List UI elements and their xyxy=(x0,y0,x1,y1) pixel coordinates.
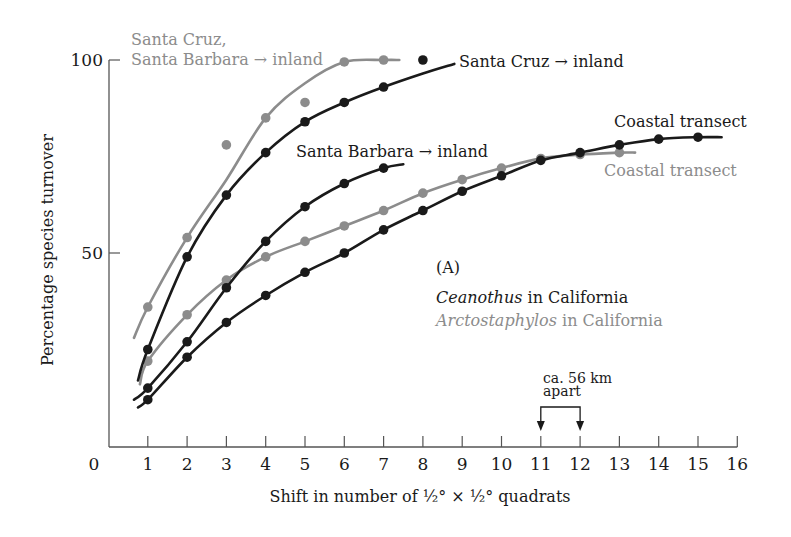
data-point xyxy=(143,302,153,312)
data-point xyxy=(300,98,310,108)
data-point xyxy=(222,318,232,328)
data-point xyxy=(261,148,271,158)
data-point xyxy=(222,283,232,293)
series-line xyxy=(138,64,454,381)
data-point xyxy=(654,134,664,144)
data-point xyxy=(182,352,192,362)
x-tick-label: 10 xyxy=(491,454,513,474)
legend-arctostaphylos: Arctostaphylos in California xyxy=(434,311,663,330)
data-point xyxy=(222,140,232,150)
data-point xyxy=(379,225,389,235)
series-label: Coastal transect xyxy=(614,112,747,131)
x-tick-label: 3 xyxy=(221,454,232,474)
x-tick-label: 9 xyxy=(457,454,468,474)
data-point xyxy=(261,291,271,301)
data-point xyxy=(222,190,232,200)
x-tick-label: 7 xyxy=(378,454,389,474)
x-tick-label: 5 xyxy=(300,454,311,474)
x-tick-label: 2 xyxy=(182,454,193,474)
x-tick-label: 12 xyxy=(569,454,591,474)
data-point xyxy=(379,206,389,216)
x-axis-label: Shift in number of ½° × ½° quadrats xyxy=(269,487,570,506)
data-point xyxy=(182,337,192,347)
data-point xyxy=(143,395,153,405)
data-point xyxy=(693,132,703,142)
species-turnover-chart: 01234567891011121314151650100 Santa Cruz… xyxy=(0,0,791,537)
y-tick-label: 100 xyxy=(71,50,103,70)
series-line xyxy=(140,152,635,384)
data-point xyxy=(182,310,192,320)
data-point xyxy=(261,113,271,123)
legend: Ceanothus in California Arctostaphylos i… xyxy=(434,288,663,330)
data-point xyxy=(340,57,350,67)
series-label: Santa Cruz, xyxy=(131,30,227,49)
x-tick-label: 14 xyxy=(648,454,670,474)
data-point xyxy=(340,98,350,108)
annotation-line-2: apart xyxy=(543,383,581,399)
x-tick-label: 6 xyxy=(339,454,350,474)
series-label: Santa Cruz → inland xyxy=(459,52,624,71)
series-3 xyxy=(140,148,635,384)
data-point xyxy=(261,252,271,262)
data-point xyxy=(143,383,153,393)
y-axis-label: Percentage species turnover xyxy=(38,134,57,366)
y-tick-label: 50 xyxy=(81,243,103,263)
data-point xyxy=(575,148,585,158)
x-tick-label: 4 xyxy=(260,454,271,474)
data-point xyxy=(615,140,625,150)
x-tick-label: 13 xyxy=(609,454,631,474)
data-point xyxy=(497,171,507,181)
x-tick-label: 16 xyxy=(726,454,748,474)
panel-label: (A) xyxy=(436,258,460,277)
data-point xyxy=(340,179,350,189)
data-point xyxy=(418,55,428,65)
data-point xyxy=(418,206,428,216)
data-point xyxy=(418,188,428,198)
series-label: Santa Barbara → inland xyxy=(131,50,323,69)
bracket-arrow-icon xyxy=(537,407,584,431)
distance-annotation: ca. 56 km apart xyxy=(537,370,612,431)
data-point xyxy=(340,248,350,258)
series-label: Coastal transect xyxy=(604,161,737,180)
x-tick-label: 11 xyxy=(530,454,552,474)
x-tick-label: 0 xyxy=(89,454,100,474)
data-point xyxy=(300,268,310,278)
x-tick-label: 8 xyxy=(417,454,428,474)
data-point xyxy=(379,82,389,92)
data-point xyxy=(182,233,192,243)
data-point xyxy=(379,163,389,173)
data-point xyxy=(457,175,467,185)
data-point xyxy=(182,252,192,262)
series-group xyxy=(134,55,722,407)
data-point xyxy=(300,117,310,127)
data-point xyxy=(300,202,310,212)
series-label: Santa Barbara → inland xyxy=(296,142,488,161)
data-point xyxy=(457,186,467,196)
x-tick-label: 15 xyxy=(687,454,709,474)
data-point xyxy=(300,237,310,247)
data-point xyxy=(143,345,153,355)
legend-ceanothus: Ceanothus in California xyxy=(436,288,629,307)
x-tick-label: 1 xyxy=(142,454,153,474)
data-point xyxy=(261,237,271,247)
data-point xyxy=(536,156,546,166)
series-labels: Santa Cruz,Santa Barbara → inlandSanta C… xyxy=(131,30,747,180)
data-point xyxy=(379,55,389,65)
data-point xyxy=(340,221,350,231)
